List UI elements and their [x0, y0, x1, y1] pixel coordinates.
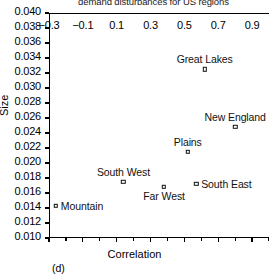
y-axis-tick: 0.014	[45, 207, 49, 208]
data-point-label: South East	[201, 178, 251, 190]
x-axis-tick	[184, 237, 185, 242]
y-axis-label: Size	[0, 95, 10, 116]
y-axis-tick: 0.028	[45, 102, 49, 103]
axis-top-spine	[49, 13, 269, 14]
y-axis-tick-label: 0.028	[14, 95, 41, 107]
x-axis-tick	[167, 237, 168, 241]
data-point-marker	[54, 204, 58, 208]
y-axis-tick: 0.016	[45, 192, 49, 193]
data-point-label: Great Lakes	[177, 53, 233, 65]
x-axis-tick-label: 0.9	[245, 19, 260, 31]
y-axis-tick: 0.020	[45, 162, 49, 163]
y-axis-tick: 0.034	[45, 57, 49, 58]
x-axis-tick-label: 0.1	[109, 19, 124, 31]
y-axis-tick-label: 0.018	[14, 170, 41, 182]
y-axis-tick-label: 0.038	[14, 20, 41, 32]
y-axis-tick: 0.030	[45, 87, 49, 88]
y-axis-tick: 0.012	[45, 222, 49, 223]
y-axis-tick: 0.022	[45, 147, 49, 148]
x-axis-tick	[65, 237, 66, 241]
y-axis-tick: 0.040	[45, 12, 49, 13]
y-axis-tick-label: 0.040	[14, 5, 41, 17]
y-axis-tick-label: 0.014	[14, 200, 41, 212]
y-axis-tick-label: 0.022	[14, 140, 41, 152]
x-axis-tick	[218, 237, 219, 242]
y-axis-tick-label: 0.034	[14, 50, 41, 62]
data-point-label: Plains	[174, 136, 202, 148]
y-axis-tick: 0.032	[45, 72, 49, 73]
x-axis-tick	[133, 237, 134, 241]
x-axis-tick	[268, 237, 269, 241]
x-axis-tick	[48, 237, 49, 242]
x-axis-tick	[201, 237, 202, 241]
y-axis-tick-label: 0.010	[14, 230, 41, 242]
data-point-label: New England	[204, 111, 265, 123]
x-axis-tick-label: 0.5	[177, 19, 192, 31]
x-axis-tick	[251, 237, 252, 242]
plot-area: 0.0100.0120.0140.0160.0180.0200.0220.024…	[49, 13, 269, 238]
y-axis-tick: 0.024	[45, 132, 49, 133]
x-axis-tick	[150, 237, 151, 242]
data-point-marker	[186, 150, 190, 154]
x-axis-tick-label: −0.1	[72, 19, 93, 31]
y-axis-tick-label: 0.036	[14, 35, 41, 47]
y-axis-tick-label: 0.030	[14, 80, 41, 92]
data-point-label: Mountain	[61, 200, 103, 212]
x-axis-tick-label: −0.3	[39, 19, 60, 31]
y-axis-tick: 0.036	[45, 42, 49, 43]
y-axis-tick: 0.026	[45, 117, 49, 118]
x-axis-tick-label: 0.3	[143, 19, 158, 31]
data-point-label: Far West	[143, 190, 185, 202]
data-point-marker	[194, 182, 198, 186]
data-point-marker	[162, 185, 166, 189]
y-axis-tick-label: 0.020	[14, 155, 41, 167]
chart-title: demand disturbances for US regions	[46, 0, 261, 7]
x-axis-tick-label: 0.7	[211, 19, 226, 31]
y-axis-tick: 0.018	[45, 177, 49, 178]
x-axis-label: Correlation	[108, 248, 162, 260]
x-axis-tick	[116, 237, 117, 242]
panel-caption: (d)	[52, 262, 65, 274]
data-point-marker	[233, 125, 237, 129]
x-axis-tick	[82, 237, 83, 242]
x-axis-tick	[235, 237, 236, 241]
data-point-marker	[202, 67, 206, 71]
y-axis-tick-label: 0.026	[14, 110, 41, 122]
data-point-marker	[121, 180, 125, 184]
axis-left-spine	[49, 13, 50, 238]
y-axis-tick-label: 0.012	[14, 215, 41, 227]
y-axis-tick-label: 0.032	[14, 65, 41, 77]
y-axis-tick-label: 0.016	[14, 185, 41, 197]
x-axis-tick	[99, 237, 100, 241]
data-point-label: South West	[97, 166, 150, 178]
scatter-chart-figure: demand disturbances for US regions 0.010…	[0, 0, 269, 276]
y-axis-tick-label: 0.024	[14, 125, 41, 137]
